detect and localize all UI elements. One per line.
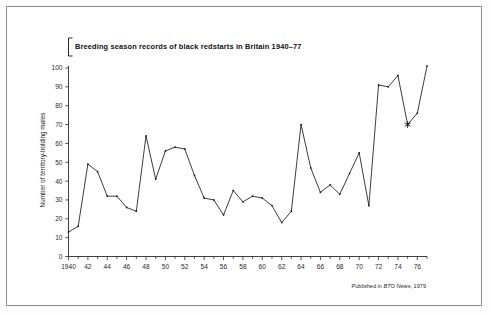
data-point-marker (310, 167, 312, 169)
credit-suffix: , 1979 (410, 283, 426, 289)
x-axis-ticks: 1940424446485052545658606264666870727476 (61, 257, 427, 271)
chart-svg: Breeding season records of black redstar… (0, 0, 490, 315)
data-point-marker (136, 211, 138, 213)
y-tick-label: 30 (55, 196, 63, 203)
data-point-marker (145, 135, 147, 137)
data-point-marker (378, 84, 380, 86)
data-point-marker (291, 211, 293, 213)
chart-title: Breeding season records of black redstar… (75, 42, 301, 51)
data-point-marker (184, 148, 186, 150)
x-tick-label: 42 (84, 263, 92, 270)
y-tick-label: 50 (55, 159, 63, 166)
data-point-marker (349, 173, 351, 175)
x-tick-label: 50 (162, 263, 170, 270)
x-tick-label: 74 (394, 263, 402, 270)
figure-container: Breeding season records of black redstar… (0, 0, 490, 315)
data-point-marker (223, 214, 225, 216)
data-point-marker (97, 171, 99, 173)
data-point-marker (155, 178, 157, 180)
data-point-marker (358, 152, 360, 154)
data-point-marker (271, 205, 273, 207)
credit-line: Published in BTO News, 1979 (351, 283, 426, 289)
x-tick-label: 66 (317, 263, 325, 270)
data-point-marker (262, 197, 264, 199)
title-bracket-icon (69, 38, 73, 56)
y-tick-label: 0 (59, 253, 63, 260)
data-point-marker (426, 65, 428, 67)
x-tick-label: 62 (278, 263, 286, 270)
data-point-marker (87, 163, 89, 165)
data-point-marker (329, 184, 331, 186)
x-tick-label: 54 (200, 263, 208, 270)
x-tick-label: 68 (336, 263, 344, 270)
y-tick-label: 40 (55, 178, 63, 185)
y-axis-label: Number of territory-holding males (39, 113, 47, 208)
data-point-marker (68, 231, 70, 233)
credit-prefix: Published in (351, 283, 383, 289)
data-point-marker (194, 175, 196, 177)
x-tick-label: 64 (297, 263, 305, 270)
x-tick-label: 56 (220, 263, 228, 270)
data-point-marker (300, 124, 302, 126)
x-tick-label: 48 (142, 263, 150, 270)
y-tick-label: 90 (55, 83, 63, 90)
x-tick-label: 70 (356, 263, 364, 270)
x-tick-label: 58 (239, 263, 247, 270)
plot-wrapper: Breeding season records of black redstar… (0, 0, 490, 315)
data-point-marker (281, 222, 283, 224)
data-point-marker (339, 194, 341, 196)
y-tick-label: 60 (55, 140, 63, 147)
data-point-marker (417, 112, 419, 114)
data-point-marker (232, 190, 234, 192)
data-point-marker (242, 201, 244, 203)
y-tick-label: 80 (55, 102, 63, 109)
y-tick-label: 20 (55, 215, 63, 222)
x-tick-label: 1940 (61, 263, 76, 270)
data-point-marker (213, 199, 215, 201)
data-point-marker (397, 75, 399, 77)
data-point-marker (368, 205, 370, 207)
y-axis-ticks: 0102030405060708090100 (51, 64, 68, 260)
data-line-series (69, 66, 428, 232)
data-point-marker (174, 146, 176, 148)
data-point-marker (77, 226, 79, 228)
data-point-marker (252, 195, 254, 197)
data-point-marker (203, 197, 205, 199)
y-tick-label: 70 (55, 121, 63, 128)
credit-source: BTO News (383, 283, 410, 289)
data-point-marker (165, 150, 167, 152)
x-tick-label: 76 (414, 263, 422, 270)
x-tick-label: 52 (181, 263, 189, 270)
x-tick-label: 46 (123, 263, 131, 270)
data-point-marker (320, 192, 322, 194)
x-tick-label: 44 (104, 263, 112, 270)
data-point-marker (387, 86, 389, 88)
y-tick-label: 10 (55, 234, 63, 241)
x-tick-label: 60 (259, 263, 267, 270)
data-point-marker (107, 195, 109, 197)
y-tick-label: 100 (51, 64, 62, 71)
x-tick-label: 72 (375, 263, 383, 270)
data-point-marker (126, 207, 128, 209)
data-point-marker (116, 195, 118, 197)
